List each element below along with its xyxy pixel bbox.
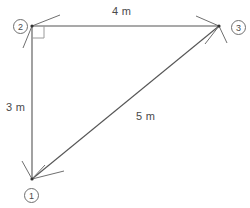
- side-length-label-4m: 4 m: [112, 5, 131, 17]
- vertex-label-2: 2: [13, 19, 28, 34]
- arrowhead-vertex2-b: [32, 15, 60, 26]
- vertex-label-1: 1: [24, 188, 39, 203]
- arrowhead-vertex1-a: [22, 161, 32, 179]
- right-angle-marker: [32, 26, 44, 38]
- triangle-figure: [0, 0, 250, 208]
- triangle-side-hypotenuse: [32, 26, 219, 179]
- triangle-diagram: 3 m 4 m 5 m 1 2 3: [0, 0, 250, 208]
- side-length-label-5m: 5 m: [136, 110, 155, 122]
- vertex-point-1: [30, 177, 33, 180]
- vertex-point-2: [30, 24, 33, 27]
- side-length-label-3m: 3 m: [6, 101, 25, 113]
- arrowhead-vertex3-c: [219, 26, 227, 43]
- vertex-point-3: [217, 24, 220, 27]
- arrowhead-vertex3-b: [205, 26, 219, 44]
- vertex-label-3: 3: [231, 20, 246, 35]
- arrowhead-vertex3-a: [196, 16, 219, 26]
